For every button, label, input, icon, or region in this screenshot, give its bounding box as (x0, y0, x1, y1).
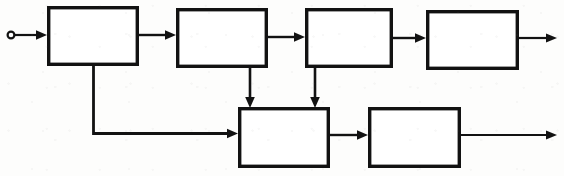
connector-input-to-block-1 (15, 30, 47, 40)
block-4[interactable] (428, 12, 518, 69)
connector-block-4-to-output (519, 33, 557, 42)
connector-block-3-to-block-5 (310, 66, 320, 108)
block-diagram-canvas (0, 0, 564, 176)
block-5[interactable] (240, 109, 329, 167)
connector-block-2-to-block-3 (268, 32, 305, 42)
block-diagram-svg (0, 0, 564, 176)
block-layer (49, 8, 518, 167)
block-2[interactable] (178, 10, 267, 67)
input-terminal[interactable] (8, 32, 15, 39)
connector-block-5-to-block-6 (330, 130, 368, 140)
terminal-layer (8, 32, 15, 39)
connector-block-6-to-output (461, 130, 557, 139)
block-6[interactable] (370, 109, 460, 167)
connector-block-2-to-block-5 (245, 66, 255, 108)
connector-block-3-to-block-4 (393, 33, 426, 43)
block-1[interactable] (49, 8, 138, 65)
block-3[interactable] (307, 10, 392, 67)
connector-block-1-feedforward-to-block-5 (94, 64, 239, 138)
connector-block-1-to-block-2 (139, 30, 176, 40)
